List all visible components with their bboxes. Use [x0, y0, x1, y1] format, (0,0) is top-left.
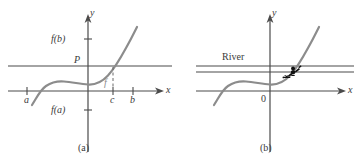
y-axis: [267, 14, 274, 152]
x-axis: [8, 88, 164, 95]
panel-b: River 0 x y (b): [182, 0, 364, 165]
panel-a: f(b) f(a) P f a c b x y (a): [0, 0, 182, 165]
figure-root: f(b) f(a) P f a c b x y (a): [0, 0, 364, 165]
caption-panel-a: (a): [78, 142, 89, 153]
label-tick-c: c: [110, 94, 114, 105]
label-axis-y: y: [272, 7, 276, 18]
label-axis-x: x: [166, 84, 170, 95]
caption-panel-b: (b): [260, 142, 272, 153]
label-f-of-b: f(b): [51, 33, 65, 44]
label-f-of-a: f(a): [51, 104, 65, 115]
label-curve-f: f: [104, 77, 107, 88]
label-tick-a: a: [24, 94, 29, 105]
label-tick-b: b: [130, 94, 135, 105]
label-river: River: [222, 51, 244, 62]
label-axis-x: x: [348, 84, 352, 95]
label-point-p: P: [74, 54, 80, 65]
y-axis: [85, 14, 92, 152]
label-axis-y: y: [90, 7, 94, 18]
panel-a-plot: [0, 0, 182, 165]
panel-b-plot: [182, 0, 364, 165]
label-origin: 0: [261, 93, 266, 104]
x-axis: [196, 88, 346, 95]
